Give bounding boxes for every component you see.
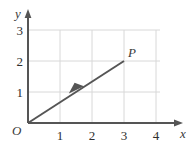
x-tick-label-4: 4 <box>148 129 164 142</box>
plot-canvas <box>0 0 195 147</box>
y-tick-label-2: 2 <box>7 55 23 68</box>
x-axis-label: x <box>180 127 186 140</box>
x-tick-label-3: 3 <box>116 129 132 142</box>
y-axis-arrowhead <box>25 9 32 18</box>
x-tick-label-1: 1 <box>52 129 68 142</box>
y-axis-label: y <box>15 7 21 20</box>
coordinate-plane-figure: y x O P 1 2 3 4 1 2 3 <box>0 0 195 147</box>
point-p-label: P <box>128 46 136 59</box>
y-tick-label-1: 1 <box>7 86 23 99</box>
origin-label: O <box>12 124 21 137</box>
y-tick-label-3: 3 <box>7 24 23 37</box>
x-tick-label-2: 2 <box>84 129 100 142</box>
